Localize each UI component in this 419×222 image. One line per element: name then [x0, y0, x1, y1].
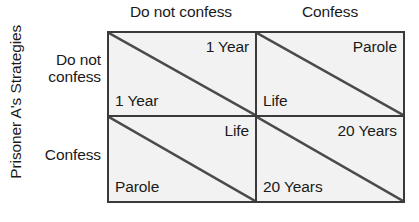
- row-header-line-2: confess: [11, 68, 101, 85]
- payoff-player-a: Life: [263, 93, 288, 109]
- row-header-line-1: Do not: [11, 51, 101, 68]
- y-axis-title: Prisoner A's Strategies: [8, 2, 24, 202]
- row-header-confess: Confess: [11, 146, 101, 163]
- payoff-player-b: Parole: [353, 39, 397, 55]
- column-header-do-not-confess: Do not confess: [107, 4, 255, 20]
- payoff-player-a: 1 Year: [115, 93, 158, 109]
- matrix-cell-confess-confess: 20 Years 20 Years: [257, 117, 403, 201]
- payoff-player-a: 20 Years: [263, 179, 323, 195]
- row-header-do-not-confess: Do not confess: [11, 51, 101, 86]
- matrix-row: Life Parole 20 Years 20 Years: [109, 117, 403, 201]
- matrix-cell-confess-donotconfess: Life Parole: [109, 117, 257, 201]
- matrix-cell-donotconfess-confess: Parole Life: [257, 33, 403, 115]
- row-header-line-1: Confess: [11, 146, 101, 163]
- payoff-player-a: Parole: [115, 179, 159, 195]
- column-header-confess: Confess: [255, 4, 405, 20]
- matrix-cell-donotconfess-donotconfess: 1 Year 1 Year: [109, 33, 257, 115]
- matrix-row: 1 Year 1 Year Parole Life: [109, 33, 403, 117]
- matrix-grid: 1 Year 1 Year Parole Life Life Parole: [107, 31, 405, 203]
- payoff-matrix-figure: Prisoner A's Strategies Do not confess C…: [0, 0, 419, 222]
- payoff-player-b: 1 Year: [206, 39, 249, 55]
- payoff-player-b: 20 Years: [337, 123, 397, 139]
- payoff-player-b: Life: [224, 123, 249, 139]
